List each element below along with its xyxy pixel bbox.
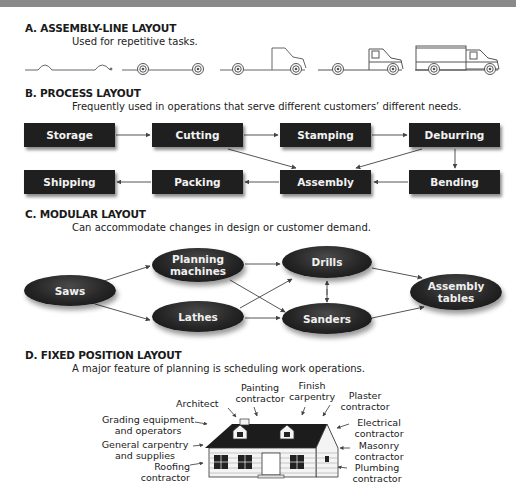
house-illustration bbox=[0, 0, 516, 497]
label-plumbing-contractor: Plumbingcontractor bbox=[348, 462, 406, 484]
label-masonry-contractor: Masonrycontractor bbox=[350, 440, 408, 462]
label-plaster-contractor: Plastercontractor bbox=[337, 390, 393, 412]
label-grading-equipment: Grading equipmentand operators bbox=[102, 414, 194, 436]
label-architect: Architect bbox=[176, 398, 219, 409]
label-painting-contractor: Paintingcontractor bbox=[232, 382, 288, 404]
label-electrical-contractor: Electricalcontractor bbox=[350, 417, 408, 439]
label-roofing-contractor: Roofingcontractor bbox=[140, 461, 190, 483]
label-general-carpentry: General carpentryand supplies bbox=[98, 439, 192, 461]
label-finish-carpentry: Finishcarpentry bbox=[286, 380, 338, 402]
